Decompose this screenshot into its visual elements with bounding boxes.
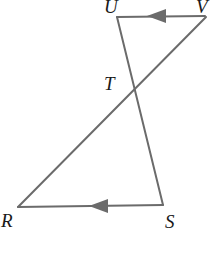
vertex-label-r: R xyxy=(1,211,13,230)
vertex-label-s: S xyxy=(165,212,175,231)
segment-RW xyxy=(18,17,206,207)
vertex-label-v: V xyxy=(196,0,208,16)
arrowhead-bottom-icon xyxy=(89,199,108,213)
geometry-canvas xyxy=(0,0,212,256)
geometry-figure: U V T R S xyxy=(0,0,212,256)
vertex-label-t: T xyxy=(104,74,115,93)
arrowhead-top-icon xyxy=(147,9,166,23)
segment-US xyxy=(117,17,163,205)
vertex-label-u: U xyxy=(104,0,118,16)
